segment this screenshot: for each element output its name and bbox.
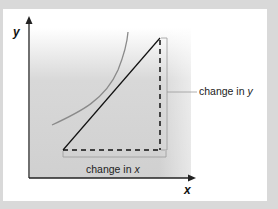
change-in-y-label: change in y — [199, 85, 253, 97]
y-axis-arrow-icon — [26, 16, 33, 24]
x-axis-arrow-icon — [188, 175, 196, 182]
change-in-x-text: change in x — [86, 163, 140, 175]
x-axis-label: x — [184, 183, 191, 197]
gradient-diagram — [0, 0, 278, 209]
change-in-y-text: change in y — [199, 85, 253, 97]
y-axis-label: y — [13, 25, 20, 39]
change-in-x-label: change in x — [86, 163, 140, 175]
